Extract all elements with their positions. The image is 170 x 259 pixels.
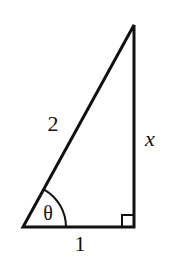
right-angle-marker bbox=[122, 215, 134, 227]
hypotenuse-label: 2 bbox=[48, 111, 59, 136]
triangle-diagram: 2 x 1 θ bbox=[0, 0, 170, 259]
vertical-side-label: x bbox=[144, 126, 155, 151]
angle-label: θ bbox=[43, 202, 53, 224]
base-label: 1 bbox=[75, 231, 86, 256]
triangle-outline bbox=[23, 25, 134, 227]
